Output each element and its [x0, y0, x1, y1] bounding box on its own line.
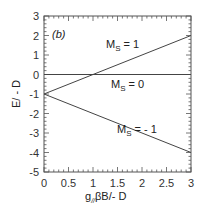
x-tick-label: 3: [188, 177, 194, 189]
y-tick-label: 0: [33, 69, 39, 81]
x-tick-label: 1: [90, 177, 96, 189]
y-tick-label: -2: [29, 108, 39, 120]
y-tick-label: -5: [29, 166, 39, 178]
y-axis-label: E/ - D: [10, 80, 22, 108]
y-tick-label: 3: [33, 10, 39, 22]
y-tick-label: 2: [33, 30, 39, 42]
x-tick-label: 2: [139, 177, 145, 189]
y-tick-label: -3: [29, 127, 39, 139]
x-axis-label: g//βB/- D: [85, 190, 126, 204]
x-tick-label: 1.5: [110, 177, 125, 189]
x-tick-label: 0.5: [61, 177, 76, 189]
annotation-ms-0: MS = 0: [111, 78, 144, 93]
annotation-ms-plus1: MS = 1: [106, 38, 139, 53]
y-tick-label: -1: [29, 88, 39, 100]
annotation-ms-minus1: MS = - 1: [117, 123, 157, 138]
panel-label: (b): [52, 28, 66, 40]
y-tick-labels: 3210-1-2-3-4-5: [29, 10, 39, 178]
y-tick-label: 1: [33, 49, 39, 61]
y-tick-label: -4: [29, 147, 39, 159]
plot-frame: [44, 16, 191, 172]
axis-ticks: [44, 16, 191, 172]
x-tick-label: 2.5: [159, 177, 174, 189]
energy-level-chart: 3210-1-2-3-4-5 00.511.522.53 (b) MS = 1 …: [0, 0, 200, 209]
x-tick-label: 0: [41, 177, 47, 189]
x-tick-labels: 00.511.522.53: [41, 177, 194, 189]
